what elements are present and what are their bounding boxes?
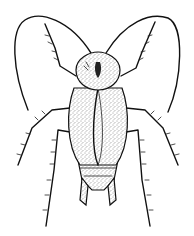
wings [69,88,128,165]
cockroach-drawing [0,0,194,236]
abdomen [78,160,118,205]
pronotum [76,52,120,90]
illustration: cockroach line drawing [0,0,194,236]
